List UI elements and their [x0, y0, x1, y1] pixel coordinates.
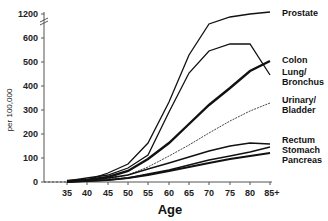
x-tick-label: 45	[103, 188, 113, 198]
label-bladder-line2: Bladder	[282, 105, 316, 115]
x-tick-label: 55	[143, 188, 153, 198]
y-tick-label: 500	[23, 57, 38, 67]
line-chart: 1200 600 500 400 300 200 100 0 35 40 45 …	[0, 0, 328, 221]
label-rectum: Rectum	[282, 135, 315, 145]
x-tick-label: 75	[225, 188, 235, 198]
series-colon	[67, 44, 270, 181]
label-colon: Colon	[282, 55, 308, 65]
label-bladder-line1: Urinary/	[282, 95, 317, 105]
label-stomach: Stomach	[282, 145, 320, 155]
x-axis-title: Age	[158, 202, 183, 217]
y-tick-label: 0	[33, 177, 38, 187]
label-prostate: Prostate	[282, 8, 318, 18]
label-pancreas: Pancreas	[282, 155, 322, 165]
x-tick-label: 40	[82, 188, 92, 198]
y-ticks: 1200 600 500 400 300 200 100 0	[18, 9, 44, 187]
x-tick-label: 60	[164, 188, 174, 198]
y-tick-label: 200	[23, 129, 38, 139]
x-tick-label: 65	[184, 188, 194, 198]
y-tick-label: 600	[23, 33, 38, 43]
y-tick-label: 100	[23, 153, 38, 163]
x-tick-label: 85+	[264, 188, 279, 198]
x-ticks: 35 40 45 50 55 60 65 70 75 80 85+	[62, 182, 280, 198]
label-lung-line1: Lung/	[282, 67, 307, 77]
y-tick-label: 1200	[18, 9, 38, 19]
x-tick-label: 70	[204, 188, 214, 198]
x-tick-label: 50	[123, 188, 133, 198]
label-lung-line2: Bronchus	[282, 77, 324, 87]
y-tick-label: 400	[23, 81, 38, 91]
series-rectum	[67, 143, 270, 181]
x-tick-label: 80	[245, 188, 255, 198]
x-tick-label: 35	[62, 188, 72, 198]
y-tick-label: 300	[23, 105, 38, 115]
y-axis-title: per 100,000	[5, 88, 14, 131]
